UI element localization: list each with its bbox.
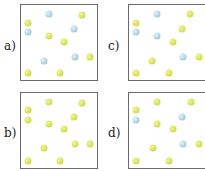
yellow-particle-icon bbox=[46, 99, 53, 106]
yellow-particle-icon bbox=[179, 26, 186, 33]
blue-particle-icon bbox=[179, 114, 186, 121]
blue-particle-icon bbox=[154, 11, 161, 18]
yellow-particle-icon bbox=[149, 58, 156, 65]
yellow-particle-icon bbox=[166, 70, 173, 77]
yellow-particle-icon bbox=[61, 39, 68, 46]
blue-particle-icon bbox=[25, 29, 32, 36]
yellow-particle-icon bbox=[25, 107, 32, 114]
yellow-particle-icon bbox=[25, 20, 32, 27]
yellow-particle-icon bbox=[87, 141, 94, 148]
yellow-particle-icon bbox=[41, 145, 48, 152]
blue-particle-icon bbox=[46, 11, 53, 18]
yellow-particle-icon bbox=[79, 12, 86, 19]
blue-particle-icon bbox=[180, 54, 187, 61]
yellow-particle-icon bbox=[61, 126, 68, 133]
yellow-particle-icon bbox=[25, 70, 32, 77]
panel-b-label: b) bbox=[4, 127, 16, 139]
yellow-particle-icon bbox=[133, 107, 140, 114]
blue-particle-icon bbox=[154, 33, 161, 40]
yellow-particle-icon bbox=[170, 126, 177, 133]
yellow-particle-icon bbox=[154, 99, 161, 106]
yellow-particle-icon bbox=[57, 158, 64, 165]
blue-particle-icon bbox=[133, 29, 140, 36]
yellow-particle-icon bbox=[187, 11, 194, 18]
yellow-particle-icon bbox=[46, 33, 53, 40]
yellow-particle-icon bbox=[25, 117, 32, 124]
yellow-particle-icon bbox=[57, 70, 64, 77]
yellow-particle-icon bbox=[133, 70, 140, 77]
blue-particle-icon bbox=[71, 26, 78, 33]
blue-particle-icon bbox=[180, 141, 187, 148]
blue-particle-icon bbox=[72, 54, 79, 61]
yellow-particle-icon bbox=[72, 141, 79, 148]
yellow-particle-icon bbox=[133, 20, 140, 27]
yellow-particle-icon bbox=[133, 158, 140, 165]
blue-particle-icon bbox=[41, 58, 48, 65]
yellow-particle-icon bbox=[154, 121, 161, 128]
yellow-particle-icon bbox=[166, 158, 173, 165]
yellow-particle-icon bbox=[71, 114, 78, 121]
yellow-particle-icon bbox=[196, 141, 203, 148]
yellow-particle-icon bbox=[79, 100, 86, 107]
blue-particle-icon bbox=[133, 117, 140, 124]
panel-c-label: c) bbox=[108, 40, 119, 52]
yellow-particle-icon bbox=[170, 39, 177, 46]
panel-a-label: a) bbox=[4, 40, 16, 52]
yellow-particle-icon bbox=[25, 158, 32, 165]
panel-d-label: d) bbox=[108, 127, 120, 139]
yellow-particle-icon bbox=[46, 121, 53, 128]
yellow-particle-icon bbox=[87, 54, 94, 61]
yellow-particle-icon bbox=[188, 99, 195, 106]
yellow-particle-icon bbox=[196, 54, 203, 61]
yellow-particle-icon bbox=[150, 145, 157, 152]
